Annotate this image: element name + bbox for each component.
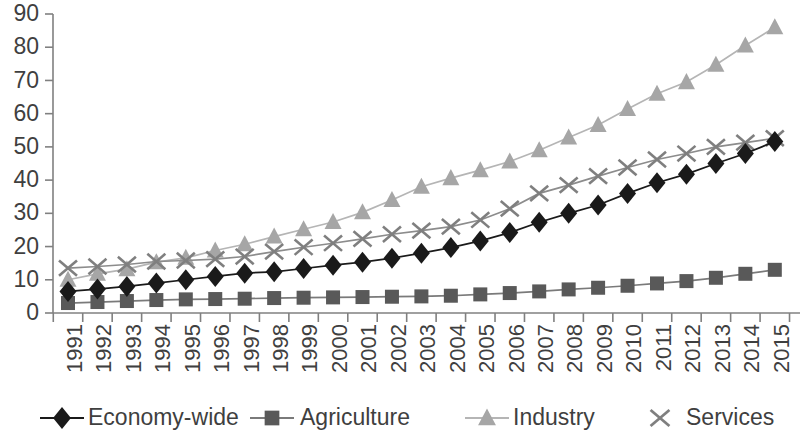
legend-item-services[interactable] — [651, 410, 670, 426]
data-point-square-icon — [532, 284, 546, 298]
y-axis-tick-label: 40 — [13, 166, 39, 192]
legend-label: Economy-wide — [88, 404, 239, 430]
plot-area — [59, 18, 784, 310]
x-axis-tick-label: 1993 — [121, 324, 146, 373]
y-axis-tick-label: 10 — [13, 266, 39, 292]
data-point-diamond-icon — [413, 243, 430, 264]
data-point-diamond-icon — [177, 269, 194, 290]
series-line — [68, 142, 775, 292]
data-point-triangle-icon — [590, 116, 607, 132]
y-axis-tick-label: 70 — [13, 67, 39, 93]
legend-item-agriculture[interactable] — [250, 411, 294, 426]
x-axis-tick-label: 2005 — [474, 324, 499, 373]
x-axis-tick-label: 1992 — [91, 324, 116, 373]
y-axis-tick-label: 60 — [13, 100, 39, 126]
data-point-square-icon — [591, 281, 605, 295]
data-point-triangle-icon — [325, 213, 342, 229]
y-axis-tick-label: 30 — [13, 199, 39, 225]
x-axis-tick-label: 2007 — [533, 324, 558, 373]
data-point-square-icon — [208, 292, 222, 306]
data-point-square-icon — [414, 289, 428, 303]
data-point-square-icon — [621, 279, 635, 293]
y-axis-tick-label: 50 — [13, 133, 39, 159]
data-point-diamond-icon — [707, 153, 724, 174]
y-axis-tick-label: 80 — [13, 33, 39, 59]
legend-item-economy-wide[interactable] — [40, 407, 84, 429]
data-point-square-icon — [768, 263, 782, 277]
data-point-x-icon — [677, 146, 695, 161]
x-axis-tick-label: 2012 — [680, 324, 705, 373]
x-axis-tick-label: 2015 — [769, 324, 794, 373]
data-point-diamond-icon — [118, 276, 135, 297]
data-point-diamond-icon — [295, 258, 312, 279]
x-axis-tick-label: 2010 — [621, 324, 646, 373]
x-axis-tick-label: 1999 — [297, 324, 322, 373]
series-line — [68, 27, 775, 279]
data-point-triangle-icon — [478, 409, 496, 426]
x-axis-tick-label: 2001 — [356, 324, 381, 373]
x-axis-tick-label: 1996 — [209, 324, 234, 373]
data-point-x-icon — [589, 168, 607, 183]
data-point-diamond-icon — [472, 230, 489, 251]
data-point-x-icon — [560, 177, 578, 192]
x-axis: 1991199219931994199519961997199819992000… — [53, 313, 800, 373]
data-point-square-icon — [650, 276, 664, 290]
data-point-diamond-icon — [590, 195, 607, 216]
data-point-square-icon — [297, 291, 311, 305]
data-point-triangle-icon — [619, 100, 636, 116]
legend-label: Industry — [513, 404, 595, 430]
data-point-square-icon — [265, 411, 280, 426]
data-point-x-icon — [471, 212, 489, 227]
x-axis-tick-label: 1994 — [150, 324, 175, 373]
data-point-diamond-icon — [236, 263, 253, 284]
data-point-x-icon — [501, 201, 519, 216]
data-point-square-icon — [562, 282, 576, 296]
data-point-triangle-icon — [383, 191, 400, 207]
data-point-triangle-icon — [737, 37, 754, 53]
data-point-square-icon — [709, 271, 723, 285]
legend-label: Services — [686, 404, 774, 430]
data-point-triangle-icon — [649, 85, 666, 101]
line-chart: 0102030405060708090 19911992199319941995… — [0, 0, 806, 444]
data-point-x-icon — [648, 152, 666, 167]
x-axis-tick-label: 1995 — [180, 324, 205, 373]
data-point-square-icon — [738, 267, 752, 281]
x-axis-tick-label: 1991 — [62, 324, 87, 373]
x-axis-tick-label: 2004 — [445, 324, 470, 373]
y-axis: 0102030405060708090 — [13, 0, 53, 325]
data-point-diamond-icon — [148, 273, 165, 294]
data-point-diamond-icon — [266, 261, 283, 282]
data-point-triangle-icon — [354, 203, 371, 219]
data-point-diamond-icon — [383, 248, 400, 269]
data-point-square-icon — [503, 286, 517, 300]
data-point-square-icon — [385, 290, 399, 304]
x-axis-tick-label: 2006 — [504, 324, 529, 373]
data-point-square-icon — [149, 293, 163, 307]
data-point-diamond-icon — [442, 237, 459, 258]
data-point-square-icon — [179, 292, 193, 306]
data-point-square-icon — [444, 289, 458, 303]
legend-item-industry[interactable] — [465, 409, 509, 426]
series-agriculture — [61, 263, 782, 310]
x-axis-tick-label: 2009 — [592, 324, 617, 373]
data-point-diamond-icon — [354, 252, 371, 273]
data-point-diamond-icon — [325, 255, 342, 276]
data-point-square-icon — [326, 290, 340, 304]
data-point-diamond-icon — [560, 203, 577, 224]
data-point-square-icon — [356, 290, 370, 304]
x-axis-tick-label: 2000 — [327, 324, 352, 373]
x-axis-tick-label: 1997 — [239, 324, 264, 373]
data-point-square-icon — [267, 291, 281, 305]
data-point-diamond-icon — [619, 183, 636, 204]
data-point-triangle-icon — [560, 129, 577, 145]
legend-label: Agriculture — [300, 404, 410, 430]
data-point-diamond-icon — [678, 164, 695, 185]
data-point-triangle-icon — [531, 141, 548, 157]
y-axis-tick-label: 20 — [13, 233, 39, 259]
data-point-diamond-icon — [501, 222, 518, 243]
x-axis-tick-label: 2003 — [415, 324, 440, 373]
data-point-diamond-icon — [53, 407, 71, 429]
data-point-x-icon — [530, 186, 548, 201]
data-point-triangle-icon — [678, 73, 695, 89]
data-point-triangle-icon — [501, 153, 518, 169]
